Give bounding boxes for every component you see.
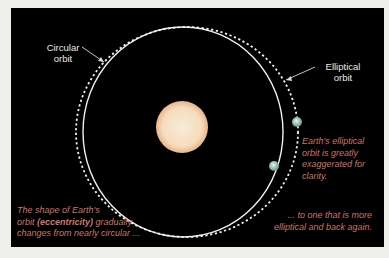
circular-orbit-label: Circular orbit [40,43,86,64]
caption-line: orbit (eccentricity) gradually [17,217,167,229]
elliptical-orbit-label: Elliptical orbit [315,62,371,83]
caption-line: clarity. [302,171,384,183]
caption-line: elliptical and back again. [247,222,372,234]
label-line: orbit [40,54,86,65]
label-line: Elliptical [315,62,371,73]
eccentricity-term: (eccentricity) [37,217,93,227]
caption-line: orbit is greatly [302,148,384,160]
label-line: orbit [315,73,371,84]
caption-line: The shape of Earth's [17,205,167,217]
caption-text: gradually [93,217,132,227]
caption-text: orbit [17,217,37,227]
circular-orbit-arrowhead [98,57,104,62]
label-line: Circular [40,43,86,54]
caption-line: ... to one that is more [247,210,372,222]
elliptical-orbit-arrowhead [286,76,292,81]
earth-elliptical-icon [292,117,302,127]
sun-icon [156,101,208,153]
caption-exaggeration-note: Earth's elliptical orbit is greatly exag… [302,136,384,182]
caption-line: changes from nearly circular ... [17,228,167,240]
caption-line: exaggerated for [302,159,384,171]
caption-line: Earth's elliptical [302,136,384,148]
caption-left: The shape of Earth's orbit (eccentricity… [17,205,167,240]
caption-bottom-right: ... to one that is more elliptical and b… [247,210,372,233]
earth-circular-icon [269,161,279,171]
